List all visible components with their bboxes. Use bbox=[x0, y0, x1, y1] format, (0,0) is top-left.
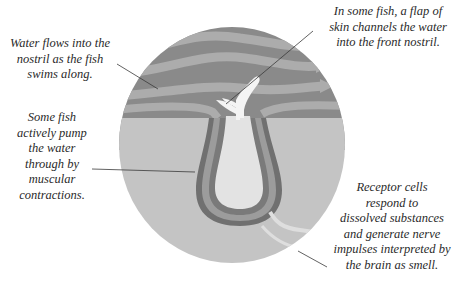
label-water-flow: Water flows into the nostril as the fish… bbox=[5, 36, 115, 83]
label-receptor-cells: Receptor cells respond to dissolved subs… bbox=[320, 180, 464, 273]
arrow-head-icon bbox=[316, 59, 330, 73]
label-muscular-pump: Some fish actively pump the water throug… bbox=[12, 110, 92, 203]
circle-cross-section bbox=[110, 20, 350, 270]
label-skin-flap: In some fish, a flap of skin channels th… bbox=[318, 4, 458, 51]
